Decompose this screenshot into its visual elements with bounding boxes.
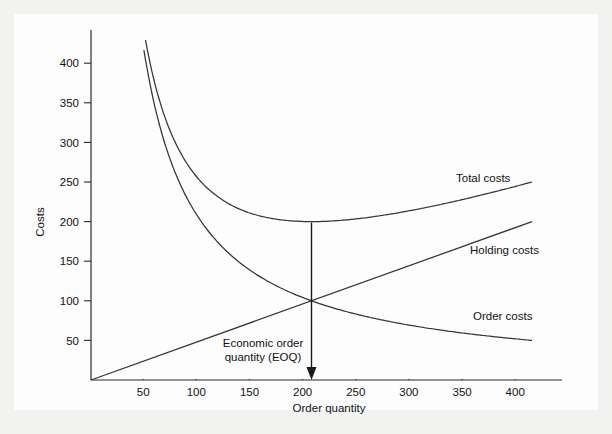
curve-mask xyxy=(92,31,562,379)
curve-overlay: Total costs Holding costs Order costs Ec… xyxy=(0,0,612,434)
series-label-order-costs: Order costs xyxy=(473,310,533,322)
series-label-holding-costs: Holding costs xyxy=(470,244,539,256)
series-label-total-costs: Total costs xyxy=(456,172,511,184)
eoq-annotation-line1: Economic order xyxy=(223,337,304,349)
eoq-figure: 400 350 300 250 200 150 100 50 50 100 15… xyxy=(0,0,612,434)
eoq-annotation-line2: quantity (EOQ) xyxy=(225,351,302,363)
